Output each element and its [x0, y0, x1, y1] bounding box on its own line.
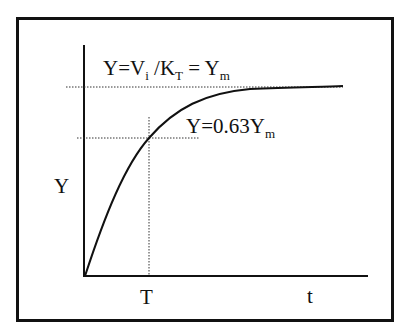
time-constant-label: T — [140, 287, 153, 308]
x-axis-label: t — [307, 286, 313, 307]
point-63-label: Y=0.63Ym — [186, 116, 275, 140]
y-axis-label: Y — [54, 176, 69, 197]
diagram-canvas: Y=Vi /KT = Ym Y=0.63Ym Y T t — [0, 0, 400, 336]
asymptote-label: Y=Vi /KT = Ym — [103, 58, 230, 82]
plot-area — [0, 0, 400, 336]
